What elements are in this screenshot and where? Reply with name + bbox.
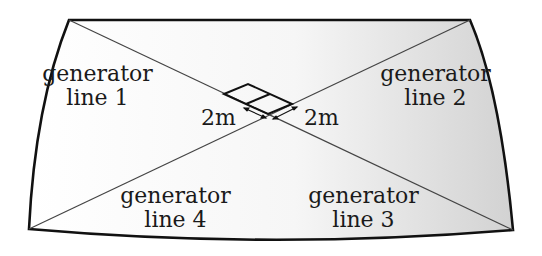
surface-outline [29,20,513,240]
label-text: line 2 [378,86,493,110]
label-text: generator [306,184,421,208]
label-generator-line-1: generator line 1 [40,62,155,110]
label-generator-line-2: generator line 2 [378,62,493,110]
label-generator-line-4: generator line 4 [118,184,233,232]
label-text: generator [118,184,233,208]
label-text: generator [378,62,493,86]
dimension-label-right: 2m [304,107,339,129]
diagram-graphic [0,0,542,256]
label-generator-line-3: generator line 3 [306,184,421,232]
dimension-label-left: 2m [201,107,236,129]
label-text: generator [40,62,155,86]
label-text: line 4 [118,208,233,232]
label-text: line 3 [306,208,421,232]
label-text: line 1 [40,86,155,110]
hyperbolic-surface-diagram: generator line 1 generator line 2 genera… [0,0,542,256]
